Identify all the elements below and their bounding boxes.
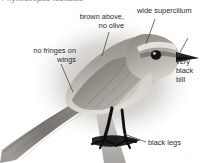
annotation-wide-supercilium: wide supercilium [137,6,207,15]
bird-identification-plate: Phylloscopus fuscatus [0,0,208,163]
annotation-brown-above: brown above, no olive [58,12,124,30]
annotation-no-fringes-on-wings: no fringes on wings [6,46,76,64]
annotation-very-black-bill: very black bill [176,57,206,85]
annotation-black-legs: black legs [148,138,206,147]
